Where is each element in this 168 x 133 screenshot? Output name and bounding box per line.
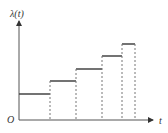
y-axis-label: λ(t) — [9, 8, 24, 20]
jump-lines — [50, 44, 135, 120]
step-function-diagram: λ(t) O t — [0, 0, 168, 133]
x-axis-label: t — [159, 115, 162, 126]
step-segments — [19, 44, 135, 94]
origin-label: O — [7, 114, 14, 125]
